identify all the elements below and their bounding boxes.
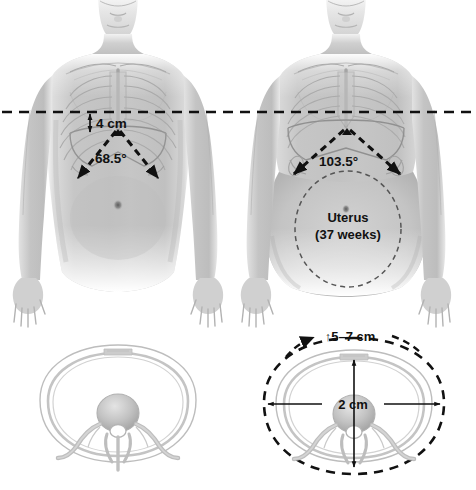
annotation-diaphragm-rise-left: 4 cm <box>90 114 127 132</box>
label-5-7cm: ↑5–7 cm <box>325 329 376 344</box>
label-angle-103-5: 103.5° <box>319 154 358 169</box>
navel <box>113 200 123 211</box>
figure-canvas: 4 cm 68.5° <box>0 0 476 490</box>
label-2cm: 2 cm <box>338 397 368 412</box>
label-uterus-gestation: (37 weeks) <box>315 227 381 242</box>
anatomy-figure: 4 cm 68.5° <box>0 0 476 490</box>
label-uterus: Uterus <box>327 210 368 225</box>
label-angle-68-5: 68.5° <box>95 151 127 166</box>
label-4cm: 4 cm <box>96 116 127 131</box>
